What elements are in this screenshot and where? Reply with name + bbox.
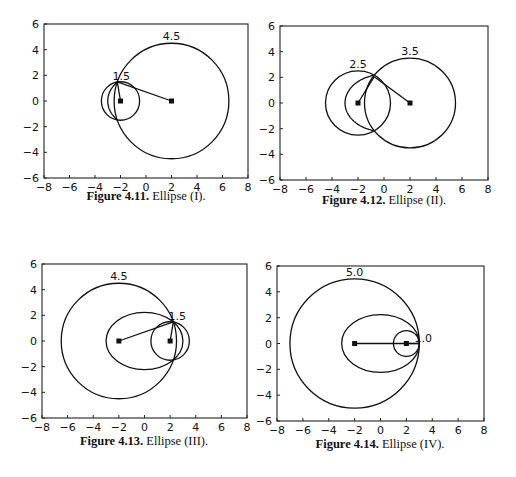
x-tick-label: −2	[111, 421, 127, 434]
figure-number: Figure 4.14.	[316, 437, 379, 451]
x-tick-label: 0	[141, 421, 148, 434]
radius-label: 4.5	[163, 30, 181, 43]
focus-marker	[408, 101, 413, 106]
radius-label: 2.5	[349, 58, 367, 71]
y-tick-label: 6	[32, 18, 39, 31]
y-tick-label: −2	[259, 123, 275, 136]
focus-marker	[118, 99, 123, 104]
radius-label: 1.5	[113, 70, 131, 83]
figure-caption: Figure 4.11. Ellipse (I).	[66, 189, 226, 204]
plot-frame	[280, 26, 488, 180]
x-tick-label: 2	[167, 421, 174, 434]
y-tick-label: 4	[30, 284, 37, 297]
x-tick-label: 6	[218, 421, 225, 434]
focus-marker	[356, 101, 361, 106]
figure-caption: Figure 4.14. Ellipse (IV).	[300, 437, 460, 452]
y-tick-label: 6	[265, 260, 272, 273]
x-tick-label: −2	[347, 424, 363, 437]
focus-marker	[169, 99, 174, 104]
y-tick-label: 0	[265, 338, 272, 351]
figure-number: Figure 4.11.	[86, 189, 149, 203]
focus-marker	[168, 339, 173, 344]
focus-marker	[116, 339, 121, 344]
charts-canvas: −8−6−4−202468−6−4−202461.54.5−8−6−4−2024…	[0, 0, 516, 477]
x-tick-label: −6	[60, 421, 76, 434]
figure-number: Figure 4.13.	[80, 434, 143, 448]
y-tick-label: −6	[259, 174, 275, 187]
y-tick-label: −4	[21, 386, 37, 399]
y-tick-label: 2	[265, 312, 272, 325]
focus-string-line	[374, 77, 410, 103]
y-tick-label: −6	[256, 415, 272, 428]
figure-title: Ellipse (I).	[149, 189, 206, 203]
focus-string-line	[119, 322, 173, 341]
x-tick-label: 6	[455, 424, 462, 437]
focus-string-line	[117, 82, 120, 101]
focus-marker	[352, 341, 357, 346]
y-tick-label: −6	[21, 412, 37, 425]
figure-title: Ellipse (IV).	[379, 437, 445, 451]
y-tick-label: 0	[30, 335, 37, 348]
y-tick-label: −2	[21, 361, 37, 374]
plot-frame	[42, 264, 247, 418]
y-tick-label: 6	[30, 258, 37, 271]
chart-fig-4-14: −8−6−4−202468−6−4−202465.01.0	[256, 260, 488, 437]
focus-marker	[404, 341, 409, 346]
plot-frame	[44, 24, 248, 178]
y-tick-label: 2	[30, 309, 37, 322]
chart-fig-4-13: −8−6−4−202468−6−4−202464.51.5	[21, 258, 251, 434]
y-tick-label: 6	[268, 20, 275, 33]
y-tick-label: 0	[32, 95, 39, 108]
figure-title: Ellipse (III).	[143, 434, 208, 448]
chart-fig-4-11: −8−6−4−202468−6−4−202461.54.5	[23, 18, 252, 194]
radius-label: 5.0	[346, 266, 364, 279]
x-tick-label: 4	[192, 421, 199, 434]
x-tick-label: 8	[244, 421, 251, 434]
y-tick-label: 4	[268, 46, 275, 59]
chart-fig-4-12: −8−6−4−202468−6−4−202462.53.5	[259, 20, 492, 196]
radius-label: 1.5	[169, 310, 187, 323]
y-tick-label: 2	[268, 71, 275, 84]
y-tick-label: 0	[268, 97, 275, 110]
figure-caption: Figure 4.13. Ellipse (III).	[64, 434, 224, 449]
y-tick-label: −2	[256, 363, 272, 376]
y-tick-label: −6	[23, 172, 39, 185]
figure-title: Ellipse (II).	[385, 193, 446, 207]
x-tick-label: 8	[481, 424, 488, 437]
x-tick-label: −4	[321, 424, 337, 437]
y-tick-label: 4	[265, 286, 272, 299]
x-tick-label: 8	[485, 183, 492, 196]
focus-string-line	[170, 322, 173, 341]
y-tick-label: −4	[23, 146, 39, 159]
x-tick-label: 4	[429, 424, 436, 437]
y-tick-label: −4	[256, 389, 272, 402]
radius-label: 4.5	[110, 270, 128, 283]
y-tick-label: −2	[23, 121, 39, 134]
x-tick-label: 2	[403, 424, 410, 437]
y-tick-label: 2	[32, 69, 39, 82]
figure-number: Figure 4.12.	[322, 193, 385, 207]
focus-string-line	[117, 82, 171, 101]
x-tick-label: 0	[377, 424, 384, 437]
radius-label: 3.5	[401, 45, 419, 58]
x-tick-label: −4	[85, 421, 101, 434]
y-tick-label: 4	[32, 44, 39, 57]
x-tick-label: 8	[245, 181, 252, 194]
y-tick-label: −4	[259, 148, 275, 161]
figure-caption: Figure 4.12. Ellipse (II).	[304, 193, 464, 208]
radius-label: 1.0	[415, 332, 433, 345]
x-tick-label: −6	[295, 424, 311, 437]
